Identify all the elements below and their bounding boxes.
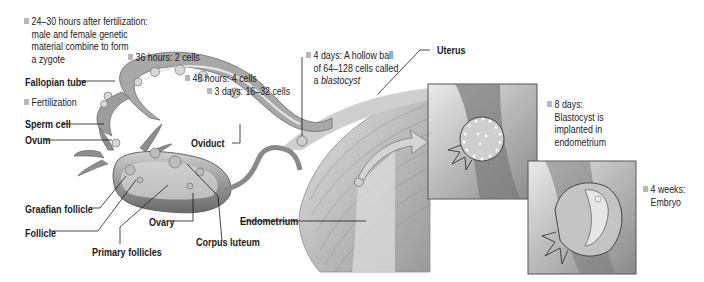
label-primary-follicles: Primary follicles (92, 246, 162, 258)
label-graafian-follicle: Graafian follicle (25, 203, 93, 215)
ovary-shape (113, 148, 300, 213)
label-endometrium: Endometrium (240, 215, 298, 227)
bullet-icon (128, 54, 133, 60)
inset-implantation (428, 84, 537, 199)
label-sperm-cell: Sperm cell (25, 118, 71, 130)
bullet-icon (24, 99, 29, 105)
bullet-icon (185, 75, 190, 81)
bullet-icon (547, 101, 552, 107)
bullet-icon (207, 88, 212, 94)
label-oviduct: Oviduct (191, 137, 225, 149)
note-fertilization: Fertilization (24, 96, 77, 109)
note-blastocyst: 4 days: A hollow ball of 64–128 cells ca… (306, 49, 398, 87)
note-two-cells: 36 hours: 2 cells (128, 51, 200, 64)
diagram-stage: Fallopian tube Sperm cell Ovum Graafian … (0, 0, 704, 282)
label-follicle: Follicle (25, 227, 56, 239)
label-corpus-luteum: Corpus luteum (196, 236, 260, 248)
note-four-cells: 48 hours: 4 cells (185, 72, 257, 85)
label-ovary: Ovary (149, 216, 175, 228)
label-fallopian-tube: Fallopian tube (25, 76, 86, 88)
inset-embryo (528, 161, 636, 274)
fallopian-tube-shape (97, 52, 332, 147)
note-morula: 3 days: 16–32 cells (207, 85, 290, 98)
bullet-icon (643, 186, 648, 192)
label-ovum: Ovum (25, 134, 51, 146)
label-uterus: Uterus (437, 44, 466, 56)
note-embryo: 4 weeks: Embryo (643, 183, 685, 208)
bullet-icon (306, 52, 311, 58)
bullet-icon (24, 18, 29, 24)
note-implantation: 8 days: Blastocyst is implanted in endom… (547, 98, 606, 148)
